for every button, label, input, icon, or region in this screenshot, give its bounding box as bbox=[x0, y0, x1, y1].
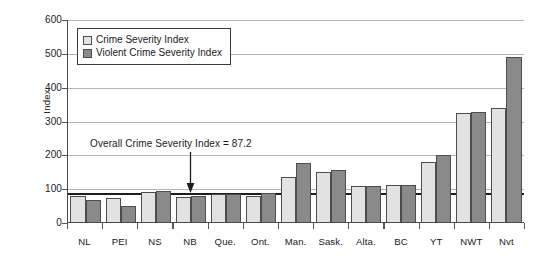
x-axis-tick-label: NWT bbox=[454, 236, 489, 256]
chart-legend: Crime Severity Index Violent Crime Sever… bbox=[77, 28, 231, 65]
bar bbox=[366, 186, 381, 222]
x-axis-tick-label: Nvt bbox=[489, 236, 524, 256]
x-axis-tick-mark bbox=[454, 223, 455, 229]
x-axis-tick-label: NL bbox=[67, 236, 102, 256]
bar bbox=[331, 170, 346, 222]
bar bbox=[246, 196, 261, 222]
y-axis-tick-label: 600 bbox=[28, 15, 62, 25]
bar bbox=[281, 177, 296, 222]
bar-group bbox=[419, 20, 454, 222]
x-axis-tick-label: Que. bbox=[208, 236, 243, 256]
x-axis-tick-mark bbox=[524, 223, 525, 229]
x-axis-tick-mark bbox=[348, 223, 349, 229]
x-axis-tick-label: YT bbox=[419, 236, 454, 256]
x-axis-tick-label: PEI bbox=[102, 236, 137, 256]
bar bbox=[86, 200, 101, 222]
bar bbox=[421, 162, 436, 222]
x-axis-tick-label: Man. bbox=[278, 236, 313, 256]
bar bbox=[351, 186, 366, 222]
light-grey-square-icon bbox=[83, 36, 92, 45]
bar bbox=[316, 172, 331, 222]
bar-group bbox=[314, 20, 349, 222]
y-axis-tick-label: 400 bbox=[28, 83, 62, 93]
bar bbox=[70, 196, 85, 222]
y-axis-tick-label: 200 bbox=[28, 150, 62, 160]
bar bbox=[176, 197, 191, 222]
x-axis-tick-mark bbox=[208, 223, 209, 229]
bar bbox=[491, 108, 506, 222]
bar bbox=[296, 163, 311, 222]
x-axis-tick-mark bbox=[383, 223, 384, 229]
bar bbox=[211, 194, 226, 222]
bar bbox=[401, 185, 416, 222]
overall-index-annotation: Overall Crime Severity Index = 87.2 bbox=[90, 138, 252, 149]
x-axis-tick-mark bbox=[137, 223, 138, 229]
x-axis-tick-mark bbox=[278, 223, 279, 229]
bar bbox=[156, 191, 171, 222]
x-axis-tick-mark bbox=[172, 223, 173, 229]
bar-group bbox=[384, 20, 419, 222]
bar-group bbox=[278, 20, 313, 222]
annotation-arrow-icon bbox=[186, 152, 195, 194]
legend-label: Violent Crime Severity Index bbox=[96, 47, 222, 59]
x-axis-tick-mark bbox=[102, 223, 103, 229]
x-axis-tick-labels: NLPEINSNBQue.Ont.Man.Sask.Alta.BCYTNWTNv… bbox=[67, 236, 524, 256]
crime-severity-bar-chart: Index 0100200300400500600 NLPEINSNBQue.O… bbox=[0, 0, 542, 272]
x-axis-tick-mark bbox=[243, 223, 244, 229]
x-axis-tick-label: BC bbox=[383, 236, 418, 256]
y-axis-tick-label: 100 bbox=[28, 184, 62, 194]
bar-group bbox=[489, 20, 524, 222]
x-axis-tick-label: NS bbox=[137, 236, 172, 256]
y-axis-tick-label: 300 bbox=[28, 117, 62, 127]
bar bbox=[191, 196, 206, 222]
bar bbox=[506, 57, 521, 222]
dark-grey-square-icon bbox=[83, 49, 92, 58]
bar-group bbox=[349, 20, 384, 222]
legend-item-crime-severity-index: Crime Severity Index bbox=[83, 34, 222, 46]
bar-group bbox=[243, 20, 278, 222]
x-axis-tick-mark bbox=[67, 223, 68, 229]
bar bbox=[226, 194, 241, 222]
bar bbox=[141, 192, 156, 222]
y-axis-tick-label: 500 bbox=[28, 49, 62, 59]
x-axis-tick-label: NB bbox=[172, 236, 207, 256]
legend-item-violent-crime-severity-index: Violent Crime Severity Index bbox=[83, 47, 222, 59]
bar bbox=[106, 198, 121, 222]
x-axis-tick-label: Alta. bbox=[348, 236, 383, 256]
legend-label: Crime Severity Index bbox=[96, 34, 189, 46]
y-axis-tick-label: 0 bbox=[28, 218, 62, 228]
x-axis-tick-mark bbox=[313, 223, 314, 229]
bar bbox=[456, 113, 471, 222]
x-axis-ticks bbox=[67, 223, 524, 230]
bar bbox=[261, 193, 276, 222]
x-axis-tick-label: Sask. bbox=[313, 236, 348, 256]
bar-group bbox=[454, 20, 489, 222]
x-axis-tick-mark bbox=[489, 223, 490, 229]
x-axis-tick-mark bbox=[419, 223, 420, 229]
bar bbox=[436, 155, 451, 222]
bar bbox=[121, 206, 136, 222]
x-axis-tick-label: Ont. bbox=[243, 236, 278, 256]
y-axis-tick-labels: 0100200300400500600 bbox=[24, 0, 62, 272]
bar bbox=[471, 112, 486, 222]
bar bbox=[386, 185, 401, 222]
